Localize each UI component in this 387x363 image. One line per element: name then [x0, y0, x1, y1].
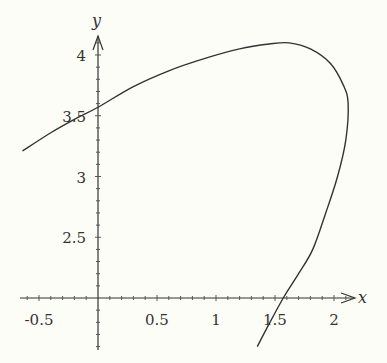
tick-labels: -0.50.511.522.533.54: [25, 47, 339, 329]
x-tick-label: 0.5: [145, 311, 169, 329]
y-tick-label: 2.5: [62, 229, 86, 247]
chart-plot: -0.50.511.522.533.54 x y: [0, 0, 387, 363]
y-tick-label: 4: [76, 47, 86, 65]
x-tick-label: 2: [329, 311, 339, 329]
x-tick-label: -0.5: [25, 311, 54, 329]
x-axis-label: x: [358, 288, 367, 307]
y-axis-label: y: [91, 11, 102, 30]
y-tick-label: 3.5: [62, 108, 86, 126]
ticks: [27, 43, 346, 347]
y-tick-label: 3: [76, 169, 86, 187]
data-curve: [22, 43, 348, 347]
x-tick-label: 1: [211, 311, 221, 329]
axes: [20, 36, 355, 350]
